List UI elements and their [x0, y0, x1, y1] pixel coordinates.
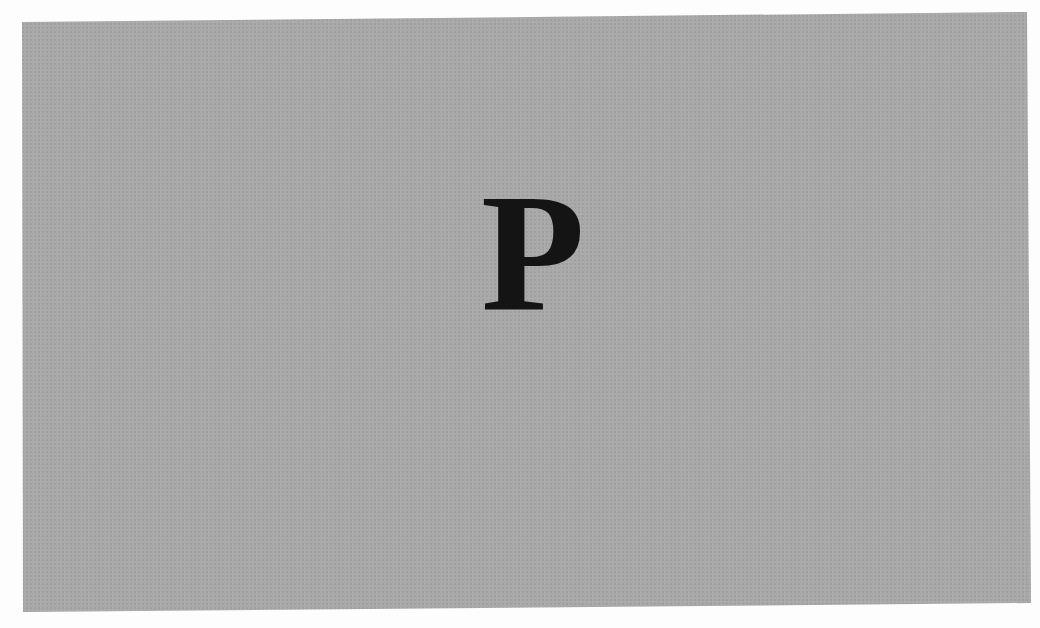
scanned-page: P — [0, 0, 1040, 628]
large-letter: P — [478, 178, 588, 328]
